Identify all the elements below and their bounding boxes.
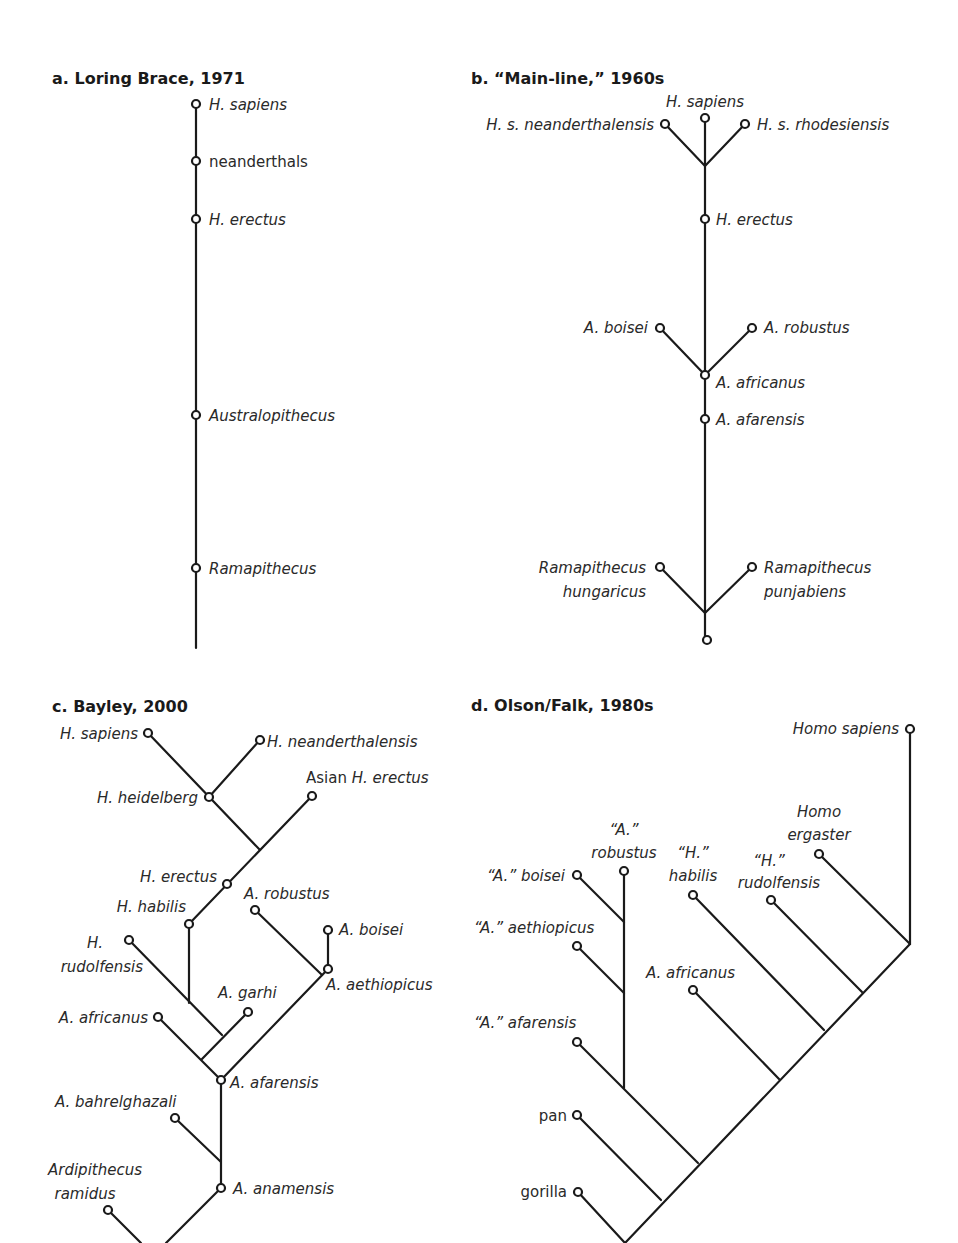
taxon-label: H. heidelberg [97, 789, 198, 807]
taxon-label: “H.” [753, 852, 785, 870]
taxon-label: H. erectus [716, 211, 793, 229]
taxon-label: Ramapithecus [764, 559, 871, 577]
taxon-label: A. robustus [763, 319, 850, 337]
taxon-label: H. s. rhodesiensis [757, 116, 889, 134]
taxon-label: A. afarensis [715, 411, 805, 429]
taxon-label: “A.” afarensis [474, 1014, 576, 1032]
hominid-phylogeny-figure: a. Loring Brace, 1971 H. sapiens neander… [0, 0, 958, 1243]
taxon-label: A. africanus [58, 1009, 148, 1027]
taxon-node-icon [701, 114, 709, 122]
taxon-node-icon [154, 1013, 162, 1021]
taxon-label: “H.” [677, 844, 709, 862]
taxon-label: A. boisei [583, 319, 649, 337]
branch [693, 990, 779, 1079]
taxon-node-icon [573, 942, 581, 950]
taxon-node-icon [701, 415, 709, 423]
taxon-node-icon [217, 1076, 225, 1084]
taxon-node-icon [192, 215, 200, 223]
panel-d: d. Olson/Falk, 1980s Homo sapiens Homo e… [471, 696, 914, 1243]
taxon-label: H. [87, 934, 103, 952]
taxon-node-icon [701, 215, 709, 223]
panel-d-title: d. Olson/Falk, 1980s [471, 696, 654, 715]
taxon-label: A. bahrelghazali [54, 1093, 177, 1111]
taxon-node-icon [748, 324, 756, 332]
taxon-node-icon [767, 896, 775, 904]
taxon-label: A. africanus [645, 964, 735, 982]
taxon-node-icon [223, 880, 231, 888]
taxon-node-icon [324, 926, 332, 934]
taxon-node-icon [906, 725, 914, 733]
taxon-node-icon [205, 793, 213, 801]
panel-a: a. Loring Brace, 1971 H. sapiens neander… [52, 69, 335, 648]
taxon-node-icon [656, 324, 664, 332]
branch [577, 1115, 661, 1200]
branch [660, 328, 705, 375]
lineage-backbone [625, 944, 910, 1243]
branch [665, 124, 705, 166]
taxon-label: A. africanus [715, 374, 805, 392]
taxon-label: rudolfensis [738, 874, 821, 892]
branch [166, 1188, 221, 1243]
taxon-node-icon [815, 850, 823, 858]
taxon-node-icon [251, 906, 259, 914]
taxon-label: punjabiens [763, 583, 846, 601]
taxon-node-icon [573, 1111, 581, 1119]
taxon-label: Australopithecus [208, 407, 335, 425]
branch [578, 1192, 625, 1243]
taxon-node-icon [192, 157, 200, 165]
taxon-node-icon [574, 1188, 582, 1196]
taxon-label: H. s. neanderthalensis [486, 116, 654, 134]
taxon-node-icon [573, 1038, 581, 1046]
taxon-node-icon [171, 1114, 179, 1122]
taxon-node-icon [620, 867, 628, 875]
taxon-label: H. sapiens [60, 725, 138, 743]
branch [771, 900, 862, 992]
taxon-label: A. boisei [338, 921, 404, 939]
taxon-node-icon [741, 120, 749, 128]
taxon-label: H. neanderthalensis [267, 733, 418, 751]
taxon-node-icon [192, 564, 200, 572]
taxon-node-icon [689, 986, 697, 994]
taxon-node-icon [244, 1008, 252, 1016]
branch [705, 567, 752, 613]
taxon-label: “A.” [609, 821, 638, 839]
taxon-label: “A.” aethiopicus [474, 919, 594, 937]
taxon-node-icon [192, 411, 200, 419]
branch [209, 740, 260, 797]
taxon-label: A. afarensis [229, 1074, 319, 1092]
taxon-label: robustus [591, 844, 657, 862]
taxon-label: Homo [797, 803, 841, 821]
branch [202, 1012, 248, 1059]
taxon-label: A. aethiopicus [325, 976, 433, 994]
branch [577, 946, 624, 993]
taxon-node-icon [308, 792, 316, 800]
taxon-label: hungaricus [563, 583, 646, 601]
taxon-label: H. erectus [140, 868, 217, 886]
taxon-node-icon [656, 563, 664, 571]
taxon-label: Asian H. erectus [306, 769, 429, 787]
taxon-node-icon [701, 371, 709, 379]
panel-c-title: c. Bayley, 2000 [52, 697, 188, 716]
branch [819, 854, 910, 944]
taxon-label: H. sapiens [666, 93, 744, 111]
taxon-label: Ardipithecus [47, 1161, 142, 1179]
taxon-node-icon [661, 120, 669, 128]
branch [660, 567, 705, 613]
taxon-node-icon [689, 891, 697, 899]
taxon-node-icon [125, 936, 133, 944]
taxon-label: A. robustus [243, 885, 330, 903]
branch [577, 1042, 698, 1163]
panel-c: c. Bayley, 2000 H. sapiens H. neandertha… [47, 697, 433, 1243]
taxon-node-icon [192, 100, 200, 108]
taxon-label: habilis [669, 867, 718, 885]
branch [175, 1118, 221, 1162]
taxon-node-icon [748, 563, 756, 571]
panel-b: b. “Main-line,” 1960s H. sapiens H. s. n… [471, 69, 889, 644]
taxon-label: Homo sapiens [793, 720, 899, 738]
taxon-node-icon [573, 871, 581, 879]
taxon-label: ergaster [787, 826, 851, 844]
branch [255, 910, 322, 975]
taxon-node-icon [217, 1184, 225, 1192]
taxon-label: H. habilis [117, 898, 187, 916]
panel-b-title: b. “Main-line,” 1960s [471, 69, 664, 88]
